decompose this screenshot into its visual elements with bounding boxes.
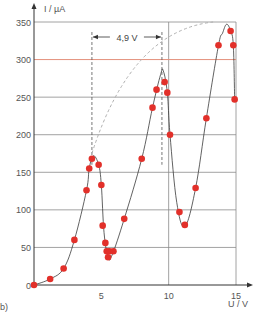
data-point xyxy=(60,265,67,272)
frank-hertz-chart: 050100150200250300350 51015 4,9 V I / µA… xyxy=(0,0,255,318)
data-points xyxy=(31,28,238,289)
fit-curve xyxy=(34,24,235,285)
data-point xyxy=(121,216,128,223)
data-point xyxy=(176,209,183,216)
panel-label: b) xyxy=(0,302,8,312)
data-point xyxy=(95,161,102,168)
data-point xyxy=(31,282,38,289)
annotations: 4,9 V xyxy=(92,22,213,165)
y-axis-label: I / µA xyxy=(44,4,65,14)
data-point xyxy=(83,187,90,194)
data-point xyxy=(215,42,222,49)
data-point xyxy=(164,89,171,96)
x-tick-labels: 51015 xyxy=(99,291,241,301)
data-point xyxy=(192,185,199,192)
data-point xyxy=(138,155,145,162)
y-tick-label: 100 xyxy=(16,205,31,215)
data-point xyxy=(105,254,112,261)
x-axis-label: U / V xyxy=(228,299,248,309)
data-point xyxy=(86,165,93,172)
data-point xyxy=(231,96,238,103)
data-point xyxy=(110,248,117,255)
spacing-annotation-label: 4,9 V xyxy=(116,33,137,43)
y-tick-label: 0 xyxy=(26,281,31,291)
x-tick-label: 10 xyxy=(164,291,174,301)
data-point xyxy=(227,28,234,35)
data-point xyxy=(71,237,78,244)
y-tick-label: 50 xyxy=(21,243,31,253)
x-tick-label: 5 xyxy=(99,291,104,301)
data-point xyxy=(149,104,156,111)
envelope-dashed-curve xyxy=(92,22,213,154)
grid-lines xyxy=(34,22,236,285)
y-tick-label: 350 xyxy=(16,18,31,28)
data-point xyxy=(99,222,106,229)
y-tick-label: 150 xyxy=(16,168,31,178)
data-point xyxy=(102,240,109,247)
data-point xyxy=(89,155,96,162)
data-point xyxy=(161,79,168,86)
y-axis-arrow-icon xyxy=(32,3,37,9)
x-axis-arrow-icon xyxy=(247,283,253,288)
data-point xyxy=(153,86,160,93)
data-point xyxy=(47,276,54,283)
arrow-right-icon xyxy=(156,35,161,39)
data-point xyxy=(182,222,189,229)
y-tick-label: 200 xyxy=(16,130,31,140)
y-tick-label: 300 xyxy=(16,55,31,65)
data-point xyxy=(167,131,174,138)
data-point xyxy=(98,182,105,189)
y-tick-labels: 050100150200250300350 xyxy=(16,18,31,291)
data-point xyxy=(203,115,210,122)
y-tick-label: 250 xyxy=(16,93,31,103)
arrow-left-icon xyxy=(93,35,98,39)
data-point xyxy=(230,42,237,49)
